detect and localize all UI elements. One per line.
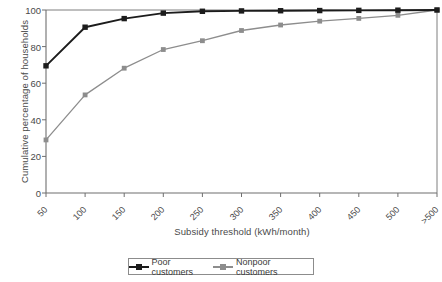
legend-label: Poor customers (152, 257, 214, 277)
plot-area (0, 0, 442, 282)
chart-legend: Poor customers Nonpoor customers (128, 258, 314, 275)
legend-marker-icon (129, 263, 149, 271)
legend-label: Nonpoor customers (236, 257, 313, 277)
legend-marker-icon (213, 263, 233, 271)
legend-entry-poor: Poor customers (129, 257, 213, 277)
x-axis-title: Subsidy threshold (kWh/month) (46, 226, 438, 237)
legend-entry-nonpoor: Nonpoor customers (213, 257, 313, 277)
chart-figure: Cumulative percentage of households 0 20… (0, 0, 442, 282)
